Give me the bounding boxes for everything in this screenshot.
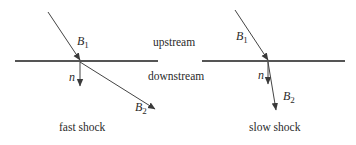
b1-arrow bbox=[48, 12, 80, 60]
slow-b2-label: B2 bbox=[283, 89, 295, 105]
fast-shock-panel bbox=[15, 12, 158, 109]
fast-b2-label: B2 bbox=[135, 100, 147, 116]
fast-shock-caption: fast shock bbox=[59, 121, 105, 133]
upstream-label: upstream bbox=[153, 36, 195, 48]
b2-arrow bbox=[268, 62, 276, 110]
slow-shock-panel bbox=[202, 10, 345, 110]
slow-b1-label: B1 bbox=[236, 29, 248, 45]
fast-b1-label: B1 bbox=[77, 34, 89, 50]
slow-n-label: n bbox=[258, 68, 264, 83]
slow-shock-caption: slow shock bbox=[249, 121, 300, 133]
fast-n-label: n bbox=[69, 70, 75, 85]
downstream-label: downstream bbox=[148, 70, 204, 82]
